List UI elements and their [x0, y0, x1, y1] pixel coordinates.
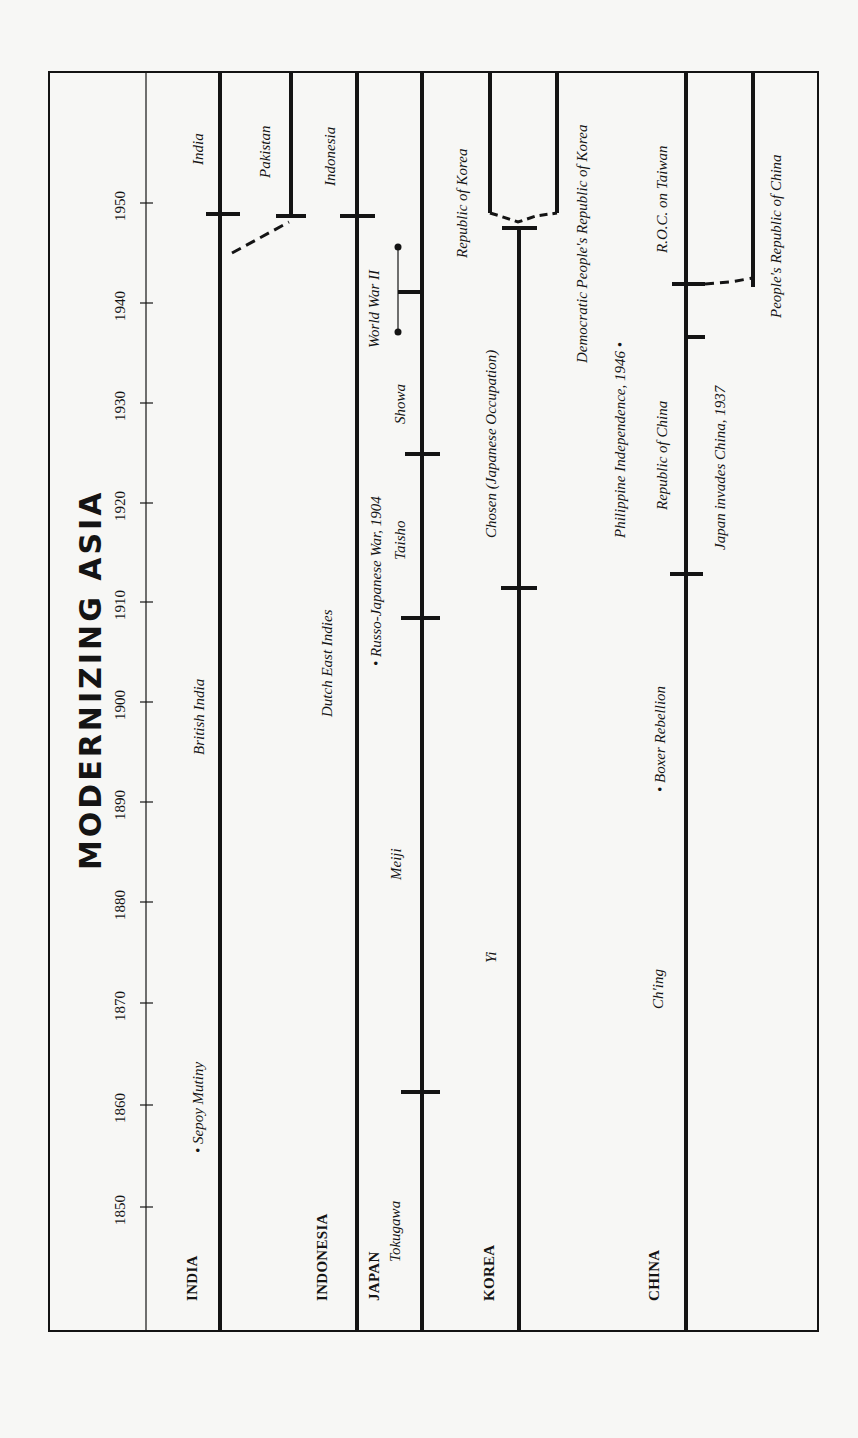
wwii-end-dot	[395, 244, 402, 251]
country-japan: JAPAN	[366, 1251, 383, 1301]
period-chosen: Chosen (Japanese Occupation)	[483, 350, 500, 538]
event-japan-invades-china: Japan invades China, 1937	[712, 386, 729, 550]
country-indonesia: INDONESIA	[314, 1213, 331, 1301]
frame	[49, 72, 818, 1331]
period-roc-on-taiwan: R.O.C. on Taiwan	[654, 146, 671, 253]
year-1900: 1900	[112, 690, 129, 720]
period-dprk: Democratic People's Republic of Korea	[574, 125, 591, 363]
period-tokugawa: Tokugawa	[387, 1201, 404, 1262]
period-ching: Ch'ing	[650, 969, 667, 1009]
period-pakistan: Pakistan	[257, 126, 274, 179]
event-world-war-ii: World War II	[366, 270, 383, 348]
period-republic-of-korea: Republic of Korea	[454, 149, 471, 258]
period-taisho: Taisho	[392, 521, 409, 560]
year-1850: 1850	[112, 1195, 129, 1225]
event-boxer-rebellion: • Boxer Rebellion	[652, 686, 669, 792]
event-russo-japanese-war: • Russo-Japanese War, 1904	[368, 496, 385, 666]
period-republic-of-china: Republic of China	[654, 401, 671, 510]
year-1880: 1880	[112, 890, 129, 920]
year-1930: 1930	[112, 391, 129, 421]
partition-dashed	[232, 222, 289, 253]
year-1940: 1940	[112, 291, 129, 321]
country-korea: KOREA	[481, 1244, 498, 1301]
period-india: India	[190, 133, 207, 165]
wwii-start-dot	[395, 329, 402, 336]
year-1870: 1870	[112, 991, 129, 1021]
year-1920: 1920	[112, 491, 129, 521]
china-split-dashed	[705, 278, 753, 284]
year-1860: 1860	[112, 1093, 129, 1123]
chart-title: MODERNIZING ASIA	[73, 490, 108, 870]
year-1950: 1950	[112, 191, 129, 221]
period-british-india: British India	[191, 679, 208, 755]
country-china: CHINA	[646, 1249, 663, 1301]
country-india: INDIA	[184, 1255, 201, 1301]
period-dutch-east-indies: Dutch East Indies	[319, 610, 336, 717]
period-peoples-republic-of-china: People's Republic of China	[768, 154, 785, 318]
korea-split-dashed	[490, 213, 557, 222]
period-indonesia: Indonesia	[322, 127, 339, 186]
period-meiji: Meiji	[388, 848, 405, 880]
event-sepoy-mutiny: • Sepoy Mutiny	[190, 1062, 207, 1153]
year-1890: 1890	[112, 790, 129, 820]
event-philippine-independence: Philippine Independence, 1946 •	[612, 342, 629, 538]
period-yi: Yi	[483, 952, 500, 963]
year-1910: 1910	[112, 590, 129, 620]
period-showa: Showa	[392, 384, 409, 424]
